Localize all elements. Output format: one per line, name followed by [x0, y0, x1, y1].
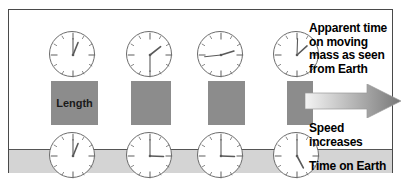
earth-clock-1 — [49, 132, 95, 178]
earth-clock-3 — [197, 132, 243, 178]
diagram-frame: Length Apparent timeon movingmass as see… — [8, 9, 393, 173]
length-bar-1: Length — [51, 81, 98, 125]
apparent-time-line-2: on moving — [309, 36, 395, 50]
length-bar-2 — [131, 81, 171, 125]
relativity-diagram: Length Apparent timeon movingmass as see… — [0, 0, 403, 185]
apparent-time-line-1: Apparent time — [309, 22, 395, 36]
apparent-time-label: Apparent timeon movingmass as seenfrom E… — [309, 22, 395, 76]
time-on-earth-label: Time on Earth — [309, 159, 386, 173]
speed-increases-line-1: Speed — [309, 122, 395, 136]
apparent-clock-2 — [126, 31, 172, 77]
apparent-time-line-3: mass as seen — [309, 49, 395, 63]
speed-increases-line-2: increases — [309, 136, 395, 150]
length-bar-label: Length — [51, 97, 98, 109]
apparent-clock-1 — [49, 31, 95, 77]
apparent-time-line-4: from Earth — [309, 63, 395, 77]
speed-increases-label: Speedincreases — [309, 122, 395, 149]
speed-increase-arrow — [305, 84, 401, 118]
length-bar-3 — [208, 81, 245, 125]
apparent-clock-3 — [197, 31, 243, 77]
earth-clock-2 — [126, 132, 172, 178]
